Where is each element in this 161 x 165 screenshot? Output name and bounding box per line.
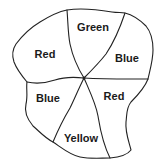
center-vertex bbox=[83, 77, 86, 80]
region-label-upper-left: Red bbox=[35, 49, 56, 60]
boundary-blue-red-right bbox=[84, 78, 148, 79]
region-label-bottom: Yellow bbox=[64, 133, 98, 144]
map-coloring-diagram: Green Red Blue Blue Red Yellow bbox=[0, 0, 161, 165]
region-label-lower-right: Red bbox=[104, 91, 125, 102]
region-label-lower-left: Blue bbox=[36, 93, 60, 104]
boundary-red-blue-left bbox=[27, 77, 84, 83]
region-label-top: Green bbox=[77, 22, 109, 33]
region-label-upper-right: Blue bbox=[115, 53, 139, 64]
